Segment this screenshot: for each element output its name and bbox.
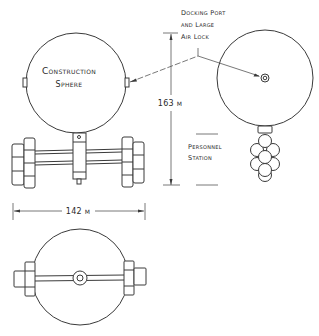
bottom-left-outer-nut <box>14 271 26 287</box>
arrowhead-right <box>138 210 144 213</box>
arrowhead-down <box>170 179 173 185</box>
width-dimension: 142 m <box>13 203 145 220</box>
column-knob <box>77 179 81 184</box>
leader-arrowhead-left <box>130 79 137 83</box>
docking-sphere <box>217 30 313 126</box>
space-station-diagram: Construction Sphere <box>0 0 319 336</box>
personnel-label-line1: Personnel <box>188 143 222 151</box>
rail <box>35 150 73 151</box>
truss-assembly <box>12 133 144 188</box>
arrowhead-up <box>170 34 173 40</box>
docking-label-line2: and Large <box>181 21 214 29</box>
bottom-left-inner-nut <box>25 262 35 296</box>
leader-arrowhead-right <box>254 74 261 77</box>
bottom-hub <box>73 271 87 285</box>
right-outer-nut <box>133 142 144 183</box>
bottom-right-inner-nut <box>124 261 134 295</box>
construction-label-line1: Construction <box>42 66 96 76</box>
arrowhead-left <box>14 210 20 213</box>
height-dimension-label: 163 m <box>158 99 183 108</box>
bottom-right-outer-nut <box>134 268 146 285</box>
docking-label-line1: Docking Port <box>181 9 226 17</box>
station-connector <box>258 126 272 133</box>
docking-port-inner <box>263 76 267 80</box>
personnel-station <box>251 126 280 182</box>
left-outer-nut <box>12 144 24 185</box>
construction-label-line2: Sphere <box>56 80 83 89</box>
docking-port-callout: Docking Port and Large Air Lock <box>130 9 260 82</box>
width-dimension-label: 142 m <box>66 207 91 216</box>
docking-port-outer <box>261 74 269 82</box>
bottom-view <box>14 229 146 325</box>
right-connector <box>125 78 129 87</box>
height-dimension: 163 m <box>158 33 218 185</box>
docking-sphere-outline <box>217 30 313 126</box>
docking-label-line3: Air Lock <box>181 33 210 41</box>
personnel-label-line2: Station <box>188 154 212 162</box>
left-connector <box>23 78 27 87</box>
